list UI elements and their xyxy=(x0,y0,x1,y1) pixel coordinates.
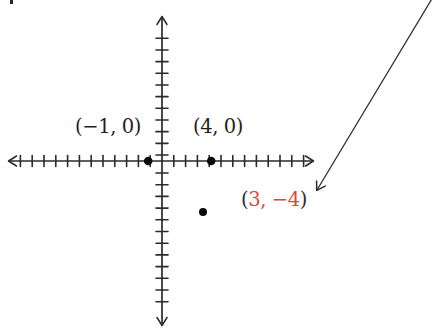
coords-text: −1, 0 xyxy=(82,115,134,138)
point-dot xyxy=(199,208,207,216)
corner-artifact xyxy=(10,0,13,4)
close-paren: ) xyxy=(300,188,307,211)
close-paren: ) xyxy=(236,115,243,138)
coords-text: 3, −4 xyxy=(248,188,300,211)
coordinate-plane-figure: (−1, 0) (4, 0) (3, −4) xyxy=(0,0,443,331)
point-dot xyxy=(207,157,216,166)
point-label-3-minus4: (3, −4) xyxy=(241,190,307,210)
point-dot xyxy=(144,157,153,166)
close-paren: ) xyxy=(134,115,141,138)
coords-text: 4, 0 xyxy=(200,115,236,138)
point-label-4-0: (4, 0) xyxy=(193,117,243,137)
point-label-minus1-0: (−1, 0) xyxy=(75,117,141,137)
coordinate-plane xyxy=(0,0,443,331)
annotation-arrow xyxy=(317,0,433,190)
